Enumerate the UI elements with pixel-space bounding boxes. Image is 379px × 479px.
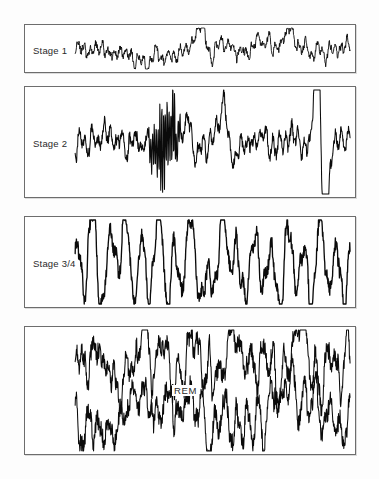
eeg-trace-stage-1-0: [75, 28, 350, 69]
eeg-trace-stage-3-4-0: [75, 220, 350, 304]
panel-label-rem: REM: [172, 385, 199, 396]
eeg-panel-stage-1: Stage 1: [24, 24, 356, 73]
eeg-trace-group-stage-1: [25, 25, 355, 72]
eeg-trace-stage-2-0: [75, 90, 350, 194]
eeg-trace-group-stage-2: [25, 87, 355, 197]
panel-label-stage-2: Stage 2: [33, 138, 67, 149]
eeg-trace-rem-0: [75, 330, 350, 418]
panel-label-stage-3-4: Stage 3/4: [33, 258, 75, 269]
eeg-figure: Stage 1Stage 2Stage 3/4REM: [0, 0, 379, 479]
eeg-panel-stage-3-4: Stage 3/4: [24, 216, 356, 308]
eeg-panel-stage-2: Stage 2: [24, 86, 356, 198]
eeg-panel-rem: REM: [24, 326, 356, 455]
panel-label-stage-1: Stage 1: [33, 45, 67, 56]
